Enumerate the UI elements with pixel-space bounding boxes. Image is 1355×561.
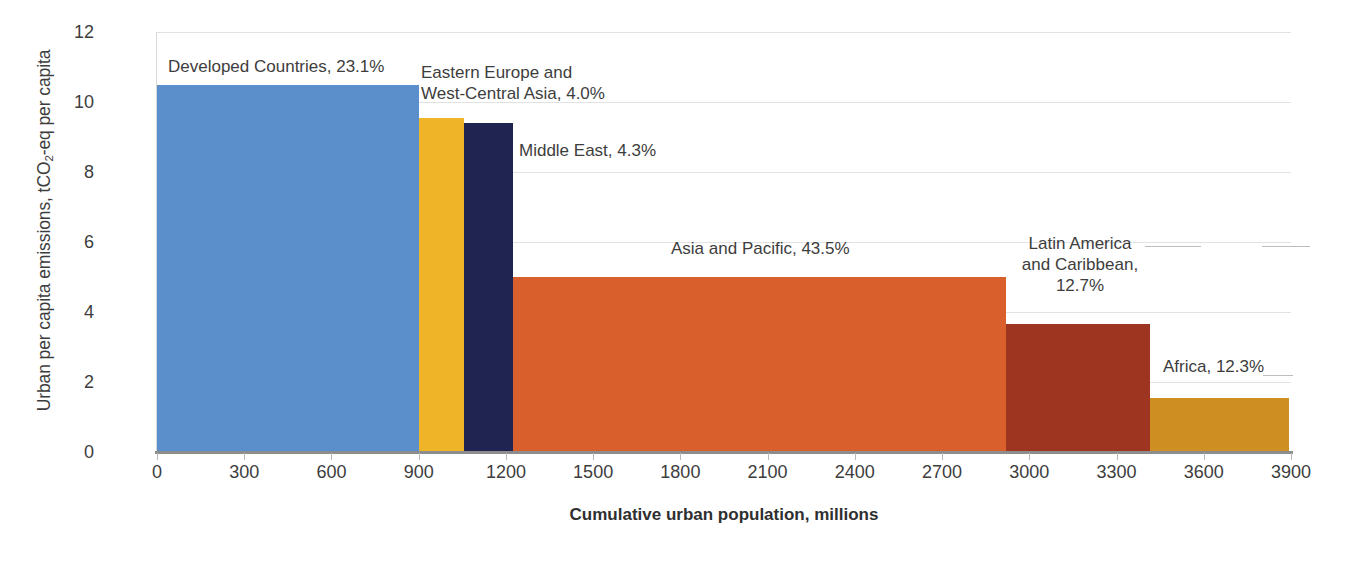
data-label-eastern-europe: Eastern Europe and West-Central Asia, 4.… [421,62,721,104]
x-tick-label: 3900 [1246,462,1336,483]
x-tick-label: 3600 [1159,462,1249,483]
x-tick-mark [942,453,943,460]
bar-segment[interactable] [513,277,1006,452]
x-tick-mark [855,453,856,460]
bar-segment[interactable] [1150,398,1289,452]
data-label-africa: Africa, 12.3% [1163,356,1355,377]
leader-line [1145,246,1201,247]
x-tick-label: 300 [199,462,289,483]
data-label-asia-pacific: Asia and Pacific, 43.5% [671,238,971,259]
x-tick-label: 1500 [548,462,638,483]
x-tick-mark [419,453,420,460]
x-axis-line [155,451,1293,454]
x-tick-mark [1204,453,1205,460]
leader-line [1263,375,1293,376]
x-tick-mark [593,453,594,460]
gridline [157,32,1291,33]
y-tick-label: 10 [34,93,94,111]
y-tick-label: 6 [34,233,94,251]
x-tick-label: 1200 [461,462,551,483]
x-tick-label: 2100 [723,462,813,483]
y-tick-label: 12 [34,23,94,41]
x-tick-mark [244,453,245,460]
bar-segment[interactable] [464,123,513,452]
leader-line [1262,246,1310,247]
x-tick-mark [1117,453,1118,460]
x-tick-mark [1029,453,1030,460]
x-axis-title: Cumulative urban population, millions [157,505,1291,525]
bar-segment[interactable] [419,118,464,452]
y-tick-label: 0 [34,443,94,461]
data-label-latin-america: Latin America and Caribbean, 12.7% [1000,233,1160,296]
x-tick-label: 2700 [897,462,987,483]
y-tick-label: 8 [34,163,94,181]
x-tick-mark [768,453,769,460]
x-tick-label: 2400 [810,462,900,483]
x-tick-mark [331,453,332,460]
x-tick-label: 1800 [635,462,725,483]
x-tick-label: 3000 [984,462,1074,483]
y-axis-line [156,32,157,454]
x-tick-label: 0 [112,462,202,483]
x-tick-mark [506,453,507,460]
x-tick-mark [680,453,681,460]
bar-segment[interactable] [157,85,419,453]
x-tick-mark [157,453,158,460]
bar-segment[interactable] [1006,324,1150,452]
x-tick-label: 600 [286,462,376,483]
x-tick-label: 900 [374,462,464,483]
chart-container: Urban per capita emissions, tCO2-eq per … [0,0,1355,561]
x-tick-label: 3300 [1072,462,1162,483]
y-tick-label: 4 [34,303,94,321]
data-label-middle-east: Middle East, 4.3% [519,140,769,161]
y-tick-label: 2 [34,373,94,391]
x-tick-mark [1291,453,1292,460]
y-axis-title-subscript: 2 [43,155,55,161]
